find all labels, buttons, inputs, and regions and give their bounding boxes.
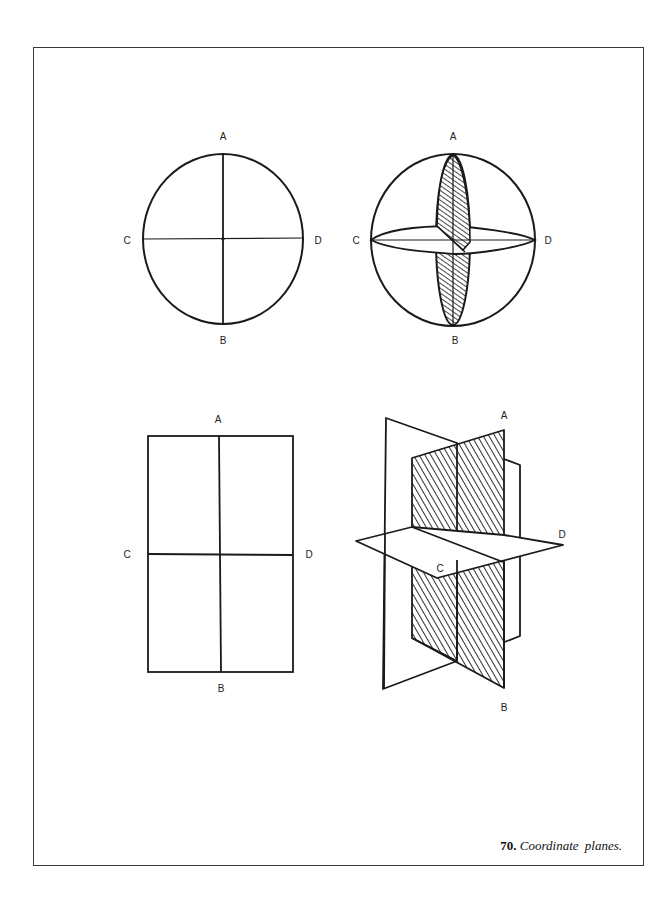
label-c: C <box>436 563 443 574</box>
label-b: B <box>452 335 459 346</box>
figure-caption: 70. Coordinate planes. <box>500 838 622 854</box>
coordinate-planes-figure <box>0 0 668 915</box>
sphere-diagram <box>371 154 535 326</box>
perspective-planes-diagram <box>356 418 563 689</box>
label-b: B <box>220 335 227 346</box>
caption-number: 70. <box>500 838 516 853</box>
label-a: A <box>215 414 222 425</box>
label-a: A <box>450 131 457 142</box>
circle-diagram <box>143 154 303 324</box>
caption-text: Coordinate planes. <box>520 838 622 853</box>
label-d: D <box>314 235 321 246</box>
rectangle-diagram <box>148 436 293 672</box>
label-d: D <box>544 235 551 246</box>
label-c: C <box>123 235 130 246</box>
label-c: C <box>352 235 359 246</box>
label-c: C <box>123 549 130 560</box>
label-a: A <box>501 410 508 421</box>
label-a: A <box>220 131 227 142</box>
label-d: D <box>558 529 565 540</box>
label-b: B <box>218 683 225 694</box>
label-b: B <box>501 702 508 713</box>
label-d: D <box>305 549 312 560</box>
